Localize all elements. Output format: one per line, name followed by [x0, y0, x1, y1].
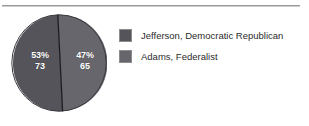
- slice-percent-jefferson: 53%: [23, 50, 57, 61]
- legend-swatch-jefferson: [119, 29, 132, 42]
- legend-label-adams: Adams, Federalist: [141, 51, 218, 63]
- slice-value-adams: 65: [68, 61, 102, 72]
- legend-item-jefferson[interactable]: Jefferson, Democratic Republican: [119, 29, 305, 42]
- top-divider-rule-shadow: [2, 6, 300, 7]
- legend-swatch-adams: [119, 50, 132, 63]
- slice-label-jefferson: 53% 73: [23, 50, 57, 71]
- chart-legend: Jefferson, Democratic Republican Adams, …: [119, 29, 305, 71]
- legend-label-jefferson: Jefferson, Democratic Republican: [141, 30, 283, 42]
- slice-percent-adams: 47%: [68, 50, 102, 61]
- slice-value-jefferson: 73: [23, 61, 57, 72]
- legend-item-adams[interactable]: Adams, Federalist: [119, 50, 305, 63]
- pie-graphic: 53% 73 47% 65: [11, 14, 107, 112]
- slice-label-adams: 47% 65: [68, 50, 102, 71]
- pie-chart-figure: 53% 73 47% 65 Jefferson, Democratic Repu…: [0, 0, 309, 126]
